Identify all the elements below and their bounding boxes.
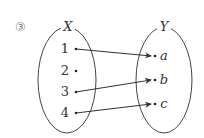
y-dot-a bbox=[154, 55, 157, 58]
set-y-label: Y bbox=[160, 19, 170, 34]
set-x-label: X bbox=[62, 19, 73, 34]
y-element-c: c bbox=[160, 96, 168, 111]
arrow-3-to-b bbox=[76, 80, 151, 92]
y-element-b: b bbox=[160, 72, 168, 87]
y-dot-b bbox=[154, 79, 157, 82]
problem-number: ③ bbox=[15, 20, 26, 34]
x-element-2: 2 bbox=[61, 63, 69, 78]
arrow-4-to-c bbox=[76, 104, 151, 113]
x-element-4: 4 bbox=[61, 105, 69, 120]
y-dot-c bbox=[154, 103, 157, 106]
y-element-a: a bbox=[160, 48, 168, 63]
mapping-diagram: ③ X 1 2 3 4 Y a b c bbox=[0, 0, 204, 138]
x-element-1: 1 bbox=[61, 41, 69, 56]
x-dot-2 bbox=[75, 70, 78, 73]
x-element-3: 3 bbox=[61, 84, 69, 99]
